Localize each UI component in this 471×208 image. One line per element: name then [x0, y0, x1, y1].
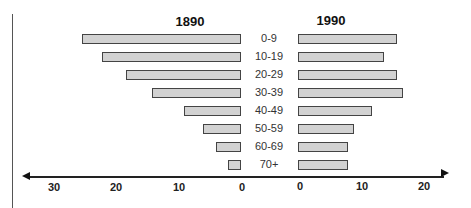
- bar-1990-30-39: [298, 88, 403, 98]
- axis-arrow-right-icon: [441, 169, 449, 177]
- bar-1890-50-59: [203, 124, 241, 134]
- bar-1990-10-19: [298, 52, 384, 62]
- age-group-label: 30-39: [255, 86, 283, 98]
- bar-1990-0-9: [298, 34, 397, 44]
- tick-label-right: 20: [418, 180, 430, 192]
- age-group-label: 20-29: [255, 68, 283, 80]
- title-1990: 1990: [317, 13, 346, 28]
- bar-1890-70+: [228, 160, 241, 170]
- bar-1890-20-29: [126, 70, 241, 80]
- tick-label-right: 10: [356, 180, 368, 192]
- bar-1990-40-49: [298, 106, 372, 116]
- bar-1990-60-69: [298, 142, 348, 152]
- tick-label-left: 10: [173, 181, 185, 193]
- bar-1990-20-29: [298, 70, 397, 80]
- tick-label-right: 0: [297, 180, 303, 192]
- age-group-label: 70+: [260, 158, 279, 170]
- bar-1890-10-19: [102, 52, 241, 62]
- bar-1890-0-9: [82, 34, 241, 44]
- bar-1890-40-49: [184, 106, 241, 116]
- bar-1990-70+: [298, 160, 348, 170]
- tick-label-left: 30: [48, 181, 60, 193]
- age-group-label: 60-69: [255, 140, 283, 152]
- age-group-label: 10-19: [255, 50, 283, 62]
- bar-1990-50-59: [298, 124, 354, 134]
- x-axis-line: [26, 176, 444, 178]
- tick-label-left: 20: [110, 181, 122, 193]
- age-group-label: 40-49: [255, 104, 283, 116]
- bar-1890-60-69: [216, 142, 241, 152]
- frame-left-line: [12, 14, 13, 208]
- bar-1890-30-39: [152, 88, 241, 98]
- tick-label-left: 0: [239, 181, 245, 193]
- age-group-label: 50-59: [255, 122, 283, 134]
- title-1890: 1890: [176, 14, 205, 29]
- age-group-label: 0-9: [261, 32, 277, 44]
- axis-arrow-left-icon: [22, 172, 30, 180]
